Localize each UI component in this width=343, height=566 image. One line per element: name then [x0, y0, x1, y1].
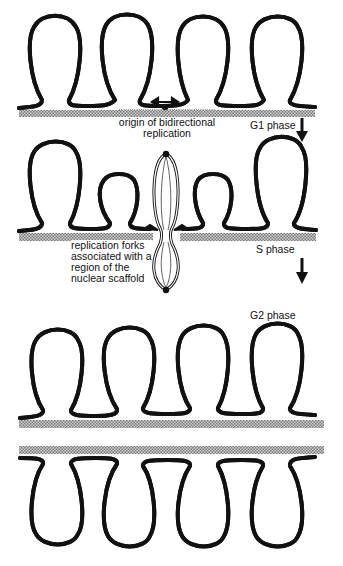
g2-top-chromatin-loops [20, 324, 315, 419]
origin-label-line2: replication [117, 128, 217, 139]
g2-bottom-chromatin-loops [20, 457, 315, 547]
s-to-g2-arrow-icon [296, 258, 308, 284]
replication-diagram [0, 0, 343, 566]
s-chromatin-loops [19, 137, 316, 231]
bubble-top-dot [163, 151, 169, 157]
replication-fork-arrows [144, 225, 188, 230]
g1-to-s-arrow-icon [296, 118, 308, 142]
s-section [19, 137, 316, 293]
s-scaffold-bar-right [180, 233, 316, 241]
g2-scaffold-bar-top [19, 420, 324, 428]
g2-scaffold-bar-bottom [19, 446, 324, 454]
origin-label: origin of bidirectional replication [117, 117, 217, 139]
origin-dot [162, 104, 168, 110]
forks-label-line4: nuclear scaffold [71, 273, 152, 284]
left-fork-arrow-icon [144, 225, 158, 230]
replication-forks-label: replication forks associated with a regi… [71, 240, 152, 284]
g1-chromatin-loops [19, 15, 315, 109]
replicating-bubble [154, 151, 179, 293]
g1-phase-label: G1 phase [250, 120, 296, 131]
origin-marker [152, 98, 178, 110]
right-fork-arrow-icon [174, 225, 188, 230]
g2-section [19, 324, 324, 547]
bubble-bottom-dot [163, 287, 169, 293]
s-phase-label: S phase [256, 244, 295, 255]
g2-phase-label: G2 phase [250, 310, 296, 321]
